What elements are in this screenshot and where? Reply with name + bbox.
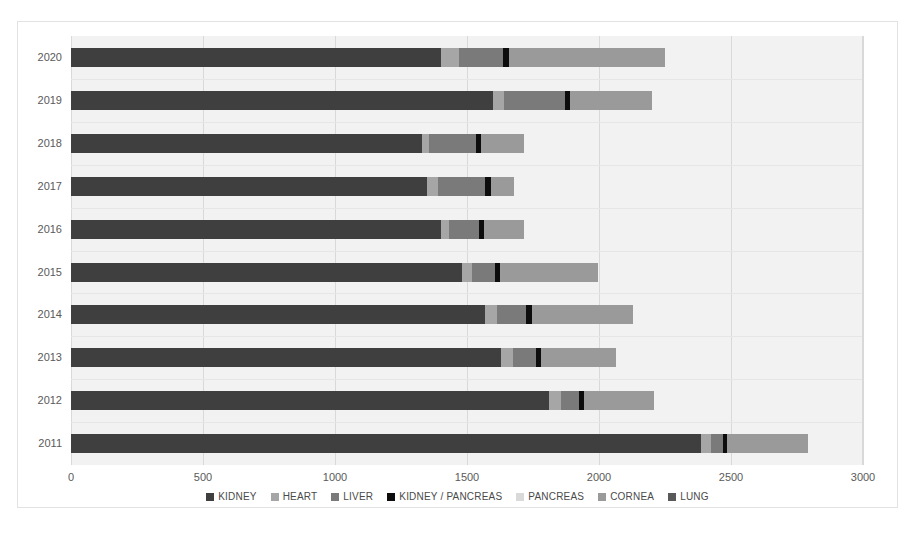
y-axis-tick-label: 2019: [38, 91, 62, 110]
legend-label: HEART: [283, 491, 318, 502]
bar-segment[interactable]: [71, 348, 501, 367]
legend-item[interactable]: PANCREAS: [516, 491, 584, 502]
x-axis-tick-label: 2000: [587, 471, 611, 483]
legend-swatch-icon: [271, 493, 279, 501]
bar-segment[interactable]: [441, 220, 449, 239]
bar-segment[interactable]: [441, 48, 459, 67]
legend-item[interactable]: KIDNEY: [206, 491, 256, 502]
stacked-bar[interactable]: [71, 91, 652, 110]
legend-swatch-icon: [387, 493, 395, 501]
chart-legend: KIDNEYHEARTLIVERKIDNEY / PANCREASPANCREA…: [18, 491, 897, 502]
bar-segment[interactable]: [484, 220, 524, 239]
bar-segment[interactable]: [561, 391, 579, 410]
bar-row: 2016: [71, 208, 863, 251]
bar-segment[interactable]: [541, 348, 616, 367]
bar-segment[interactable]: [438, 177, 486, 196]
x-axis-tick-label: 500: [194, 471, 212, 483]
legend-swatch-icon: [206, 493, 214, 501]
stacked-bar[interactable]: [71, 305, 633, 324]
stacked-bar[interactable]: [71, 391, 654, 410]
bar-segment[interactable]: [727, 434, 808, 453]
legend-label: KIDNEY: [218, 491, 256, 502]
bar-segment[interactable]: [549, 391, 561, 410]
x-axis-tick-label: 0: [68, 471, 74, 483]
legend-label: PANCREAS: [528, 491, 584, 502]
x-axis-tick-label: 3000: [851, 471, 875, 483]
bar-segment[interactable]: [501, 348, 513, 367]
legend-swatch-icon: [516, 493, 524, 501]
legend-item[interactable]: KIDNEY / PANCREAS: [387, 491, 502, 502]
bar-segment[interactable]: [504, 91, 565, 110]
bar-segment[interactable]: [71, 434, 701, 453]
bar-segment[interactable]: [500, 263, 598, 282]
bar-segment[interactable]: [422, 134, 429, 153]
bar-segment[interactable]: [71, 391, 549, 410]
legend-label: KIDNEY / PANCREAS: [399, 491, 502, 502]
legend-swatch-icon: [668, 493, 676, 501]
y-axis-tick-label: 2012: [38, 391, 62, 410]
bar-segment[interactable]: [427, 177, 438, 196]
stacked-bar[interactable]: [71, 434, 808, 453]
bar-segment[interactable]: [449, 220, 479, 239]
legend-item[interactable]: HEART: [271, 491, 318, 502]
x-axis-tick-label: 1000: [323, 471, 347, 483]
bar-row: 2011: [71, 422, 863, 465]
stacked-bar[interactable]: [71, 134, 524, 153]
legend-label: LUNG: [680, 491, 709, 502]
legend-swatch-icon: [598, 493, 606, 501]
y-axis-tick-label: 2017: [38, 177, 62, 196]
x-axis: 050010001500200025003000: [71, 471, 863, 487]
bar-segment[interactable]: [509, 48, 665, 67]
y-axis-tick-label: 2018: [38, 134, 62, 153]
bar-segment[interactable]: [497, 305, 526, 324]
bar-segment[interactable]: [459, 48, 503, 67]
bar-row: 2012: [71, 379, 863, 422]
bar-segment[interactable]: [481, 134, 523, 153]
bar-segment[interactable]: [71, 305, 485, 324]
y-axis-tick-label: 2015: [38, 263, 62, 282]
plot-area: 2020201920182017201620152014201320122011: [71, 36, 863, 465]
gridline: [863, 36, 864, 465]
bar-segment[interactable]: [513, 348, 535, 367]
bar-segment[interactable]: [503, 48, 510, 67]
y-axis-tick-label: 2011: [38, 434, 62, 453]
bar-row: 2020: [71, 36, 863, 79]
bar-row: 2019: [71, 79, 863, 122]
bar-segment[interactable]: [71, 134, 422, 153]
bar-segment[interactable]: [701, 434, 712, 453]
stacked-bar[interactable]: [71, 177, 514, 196]
stacked-bar[interactable]: [71, 348, 616, 367]
legend-label: CORNEA: [610, 491, 654, 502]
bar-segment[interactable]: [462, 263, 473, 282]
bar-segment[interactable]: [493, 91, 504, 110]
bar-segment[interactable]: [485, 305, 497, 324]
y-axis-tick-label: 2013: [38, 348, 62, 367]
bar-segment[interactable]: [71, 220, 441, 239]
bar-segment[interactable]: [711, 434, 723, 453]
bar-segment[interactable]: [584, 391, 654, 410]
bar-segment[interactable]: [472, 263, 494, 282]
legend-item[interactable]: CORNEA: [598, 491, 654, 502]
bar-segment[interactable]: [71, 91, 493, 110]
stacked-bar[interactable]: [71, 220, 524, 239]
legend-item[interactable]: LIVER: [331, 491, 373, 502]
bar-row: 2018: [71, 122, 863, 165]
bar-segment[interactable]: [532, 305, 634, 324]
legend-item[interactable]: LUNG: [668, 491, 709, 502]
chart-container: 2020201920182017201620152014201320122011…: [17, 21, 898, 508]
bar-row: 2015: [71, 251, 863, 294]
x-axis-tick-label: 1500: [455, 471, 479, 483]
bar-segment[interactable]: [570, 91, 652, 110]
bar-segment[interactable]: [71, 263, 462, 282]
x-axis-tick-label: 2500: [719, 471, 743, 483]
bar-segment[interactable]: [71, 177, 427, 196]
stacked-bar[interactable]: [71, 263, 598, 282]
bar-segment[interactable]: [71, 48, 441, 67]
y-axis-tick-label: 2016: [38, 220, 62, 239]
bar-segment[interactable]: [491, 177, 515, 196]
stacked-bar[interactable]: [71, 48, 665, 67]
y-axis-tick-label: 2014: [38, 305, 62, 324]
legend-label: LIVER: [343, 491, 373, 502]
y-axis-tick-label: 2020: [38, 48, 62, 67]
bar-segment[interactable]: [429, 134, 477, 153]
